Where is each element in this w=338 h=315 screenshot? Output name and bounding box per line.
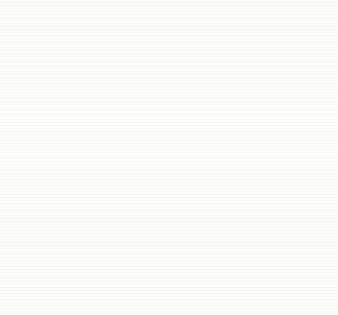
y-tick-40: 40 xyxy=(39,171,47,180)
y-tick-30: 30 xyxy=(39,195,47,204)
y-tick-0: 0 xyxy=(43,267,47,276)
y-axis-title: Per cent xyxy=(13,134,22,165)
value-label-middle-income-population: 33 xyxy=(158,167,166,176)
chart-svg: 100 90 80 70 60 50 40 30 20 10 0 Per cen… xyxy=(0,0,338,315)
legend-label-population-share: Population share xyxy=(255,23,318,33)
y-axis-ticks: 100 90 80 70 60 50 40 30 20 10 0 xyxy=(34,26,47,276)
page-bottom-rule xyxy=(10,303,328,304)
category-label-middle-income-line1: Middle-income xyxy=(158,276,211,285)
bar-high-income-income xyxy=(100,123,145,271)
value-label-middle-income-income: 37 xyxy=(196,157,204,166)
legend-swatch-population-share xyxy=(219,22,250,33)
category-label-low-income-line2: countries xyxy=(254,287,287,296)
y-tick-90: 90 xyxy=(39,50,47,59)
value-label-high-income-income: 55 xyxy=(110,113,118,122)
footnote-asterisk: * xyxy=(300,168,304,177)
category-label-high-income-line2: countries xyxy=(81,287,114,296)
legend-swatch-income-share xyxy=(219,37,250,48)
y-tick-10: 10 xyxy=(39,243,47,252)
legend: Population share Income share xyxy=(213,17,330,51)
legend-label-income-share: Income share xyxy=(255,38,306,48)
y-tick-80: 80 xyxy=(39,74,47,83)
y-tick-60: 60 xyxy=(39,122,47,131)
value-label-low-income-income: 8 xyxy=(282,227,286,236)
bar-middle-income-income xyxy=(186,167,231,271)
y-tick-100: 100 xyxy=(34,26,47,35)
bar-chart: 100 90 80 70 60 50 40 30 20 10 0 Per cen… xyxy=(0,0,338,315)
category-label-low-income-line1: Low-income xyxy=(248,276,292,285)
x-axis-category-labels: High-income countries Middle-income coun… xyxy=(74,276,292,296)
category-label-middle-income-line2: countries xyxy=(168,287,201,296)
y-tick-70: 70 xyxy=(39,98,47,107)
y-tick-50: 50 xyxy=(39,147,47,156)
value-label-high-income-population: 15 xyxy=(70,224,78,233)
value-label-low-income-population: 52 xyxy=(248,121,256,130)
y-tick-20: 20 xyxy=(39,219,47,228)
category-label-high-income-line1: High-income xyxy=(74,276,120,285)
